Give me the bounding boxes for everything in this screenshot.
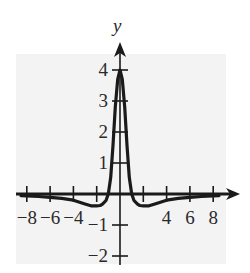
y-axis-label: y (111, 15, 122, 36)
x-tick-label: 6 (185, 207, 195, 228)
chart: −8−6−4468 4321−1−2 y (0, 0, 250, 273)
x-tick-label: 8 (208, 207, 218, 228)
plot-background (16, 54, 226, 264)
y-tick-label: 4 (99, 59, 109, 80)
x-tick-label: −4 (63, 207, 84, 228)
x-tick-label: 4 (162, 207, 172, 228)
x-tick-label: −6 (40, 207, 60, 228)
y-tick-label: −2 (88, 245, 108, 266)
y-tick-label: 3 (99, 90, 109, 111)
y-tick-label: 2 (99, 121, 109, 142)
x-tick-label: −8 (17, 207, 37, 228)
y-tick-label: 1 (99, 152, 109, 173)
y-tick-label: −1 (88, 214, 108, 235)
